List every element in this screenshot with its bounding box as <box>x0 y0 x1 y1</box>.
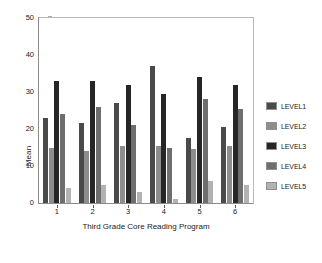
bar-level2-5 <box>191 149 196 203</box>
bar-level4-5 <box>203 99 208 203</box>
y-tick-label: 50 <box>12 13 34 22</box>
bar-group <box>43 18 71 203</box>
bar-level2-3 <box>120 146 125 203</box>
x-tick-label: 2 <box>83 207 103 216</box>
bar-group <box>79 18 107 203</box>
bar-level4-1 <box>60 114 65 203</box>
legend-item-label: LEVEL2 <box>281 123 306 130</box>
bar-level3-2 <box>90 81 95 203</box>
bar-level3-6 <box>233 85 238 203</box>
plot-area <box>39 18 253 203</box>
x-tick-label: 6 <box>225 207 245 216</box>
bar-level1-2 <box>79 123 84 203</box>
bar-group <box>186 18 214 203</box>
bar-level3-5 <box>197 77 202 203</box>
y-tick-label: 20 <box>12 124 34 133</box>
bar-level2-2 <box>84 151 89 203</box>
bar-level4-6 <box>238 109 243 203</box>
bar-level2-6 <box>227 146 232 203</box>
bar-level5-4 <box>173 199 178 203</box>
bar-level1-1 <box>43 118 48 203</box>
x-axis-title: Third Grade Core Reading Program <box>39 222 253 231</box>
bar-level5-5 <box>208 181 213 203</box>
bar-level1-6 <box>221 127 226 203</box>
legend-swatch-icon <box>266 182 277 190</box>
y-axis-ticks: 01020304050 <box>12 16 34 204</box>
x-tick-label: 4 <box>154 207 174 216</box>
legend-swatch-icon <box>266 162 277 170</box>
y-tick-label: 30 <box>12 87 34 96</box>
legend-swatch-icon <box>266 102 277 110</box>
bar-chart: Mean 01020304050 123456 Third Grade Core… <box>0 0 322 263</box>
y-tick-label: 0 <box>12 198 34 207</box>
legend-item-label: LEVEL4 <box>281 163 306 170</box>
bar-level5-1 <box>66 188 71 203</box>
legend-item-level2[interactable]: LEVEL2 <box>266 121 320 131</box>
legend-item-level4[interactable]: LEVEL4 <box>266 161 320 171</box>
y-tick-label: 10 <box>12 161 34 170</box>
y-tick-label: 40 <box>12 50 34 59</box>
bar-level4-3 <box>131 125 136 203</box>
legend-item-level3[interactable]: LEVEL3 <box>266 141 320 151</box>
legend: LEVEL1LEVEL2LEVEL3LEVEL4LEVEL5 <box>266 101 320 201</box>
bar-level4-2 <box>96 107 101 203</box>
legend-swatch-icon <box>266 122 277 130</box>
bar-level4-4 <box>167 148 172 204</box>
legend-item-label: LEVEL3 <box>281 143 306 150</box>
bar-level3-1 <box>54 81 59 203</box>
x-axis-ticks: 123456 <box>39 205 253 219</box>
bar-level1-4 <box>150 66 155 203</box>
bar-level3-3 <box>126 85 131 203</box>
legend-item-level5[interactable]: LEVEL5 <box>266 181 320 191</box>
legend-swatch-icon <box>266 142 277 150</box>
x-tick-label: 1 <box>47 207 67 216</box>
bar-level5-2 <box>101 185 106 204</box>
bar-group <box>150 18 178 203</box>
bar-level2-1 <box>49 148 54 204</box>
legend-item-label: LEVEL1 <box>281 103 306 110</box>
bar-level3-4 <box>161 94 166 203</box>
x-tick-label: 5 <box>190 207 210 216</box>
bar-level5-6 <box>244 185 249 204</box>
bar-group <box>114 18 142 203</box>
bar-level1-5 <box>186 138 191 203</box>
legend-item-label: LEVEL5 <box>281 183 306 190</box>
bar-level5-3 <box>137 192 142 203</box>
x-tick-label: 3 <box>118 207 138 216</box>
bar-level1-3 <box>114 103 119 203</box>
legend-item-level1[interactable]: LEVEL1 <box>266 101 320 111</box>
bar-group <box>221 18 249 203</box>
bar-level2-4 <box>156 146 161 203</box>
